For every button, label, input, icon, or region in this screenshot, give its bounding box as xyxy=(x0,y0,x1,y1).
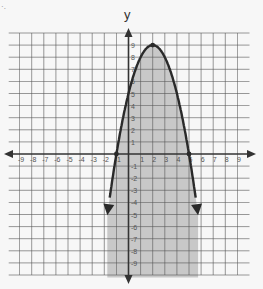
y-axis-down-arrow-icon xyxy=(125,275,133,284)
coordinate-plane: -9-8-7-6-5-4-3-2-1123456789987654321-1-2… xyxy=(0,0,263,289)
y-tick-label: 2 xyxy=(131,127,135,134)
y-tick-label: -3 xyxy=(131,187,137,194)
x-tick-label: -5 xyxy=(66,156,72,163)
y-axis-up-arrow-icon xyxy=(125,28,133,37)
x-tick-label: 7 xyxy=(213,156,217,163)
x-tick-label: 4 xyxy=(176,156,180,163)
y-tick-label: -6 xyxy=(131,224,137,231)
y-tick-label: 5 xyxy=(131,91,135,98)
graph-figure: ·. -9-8-7-6-5-4-3-2-1123456789987654321-… xyxy=(0,0,263,289)
y-tick-label: -4 xyxy=(131,199,137,206)
x-tick-label: -9 xyxy=(18,156,24,163)
y-axis-label: y xyxy=(124,7,131,22)
key-point-dot xyxy=(150,43,155,48)
x-tick-label: -3 xyxy=(91,156,97,163)
x-tick-label: -7 xyxy=(42,156,48,163)
x-tick-label: 3 xyxy=(164,156,168,163)
y-tick-label: 9 xyxy=(131,42,135,49)
x-tick-label: 2 xyxy=(152,156,156,163)
y-tick-label: 3 xyxy=(131,115,135,122)
y-tick-label: -2 xyxy=(131,175,137,182)
x-tick-label: -4 xyxy=(78,156,84,163)
y-tick-label: -8 xyxy=(131,248,137,255)
y-tick-label: 4 xyxy=(131,103,135,110)
y-tick-label: 8 xyxy=(131,54,135,61)
x-tick-label: 9 xyxy=(237,156,241,163)
y-tick-label: -1 xyxy=(131,163,137,170)
key-point-dot xyxy=(187,152,192,157)
x-tick-label: -2 xyxy=(103,156,109,163)
x-axis-left-arrow-icon xyxy=(4,150,13,158)
x-tick-label: -8 xyxy=(30,156,36,163)
y-tick-label: -9 xyxy=(131,260,137,267)
x-axis-right-arrow-icon xyxy=(247,150,256,158)
x-tick-label: 6 xyxy=(201,156,205,163)
x-tick-label: 8 xyxy=(225,156,229,163)
y-tick-label: 1 xyxy=(131,139,135,146)
y-tick-label: -7 xyxy=(131,236,137,243)
x-tick-label: 1 xyxy=(140,156,144,163)
key-point-dot xyxy=(114,152,119,157)
y-tick-label: -5 xyxy=(131,212,137,219)
x-tick-label: -6 xyxy=(54,156,60,163)
